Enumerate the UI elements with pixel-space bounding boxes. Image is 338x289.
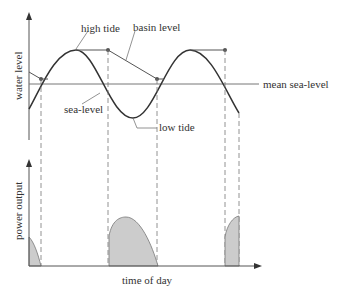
upper-plot: high tide basin level mean sea-level sea…: [12, 16, 329, 140]
power-output-area: [225, 216, 239, 266]
basin-level-label: basin level: [133, 21, 180, 33]
mean-sea-level-label: mean sea-level: [263, 78, 329, 90]
high-tide-label: high tide: [81, 22, 120, 34]
basin-level-line: [29, 50, 225, 79]
water-level-axis-label: water level: [12, 51, 24, 100]
sea-level-label: sea-level: [64, 103, 103, 115]
tidal-power-diagram: high tide basin level mean sea-level sea…: [0, 0, 338, 289]
basin-level-leader: [126, 31, 135, 60]
lower-plot: power output time of day: [12, 163, 258, 286]
power-output-area: [29, 237, 41, 266]
power-output-axis-label: power output: [12, 182, 24, 240]
low-tide-leader: [133, 118, 157, 128]
low-tide-label: low tide: [159, 121, 195, 133]
time-of-day-axis-label: time of day: [122, 274, 173, 286]
power-output-area: [109, 217, 158, 266]
